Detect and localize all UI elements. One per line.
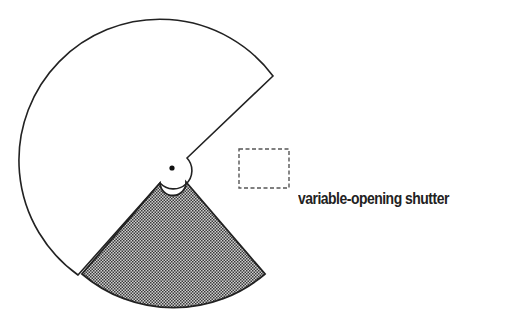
- hub-pivot-dot: [169, 165, 174, 170]
- shutter-label: variable-opening shutter: [298, 189, 449, 209]
- aperture-dashed-box: [239, 149, 289, 188]
- shutter-diagram: [0, 0, 523, 330]
